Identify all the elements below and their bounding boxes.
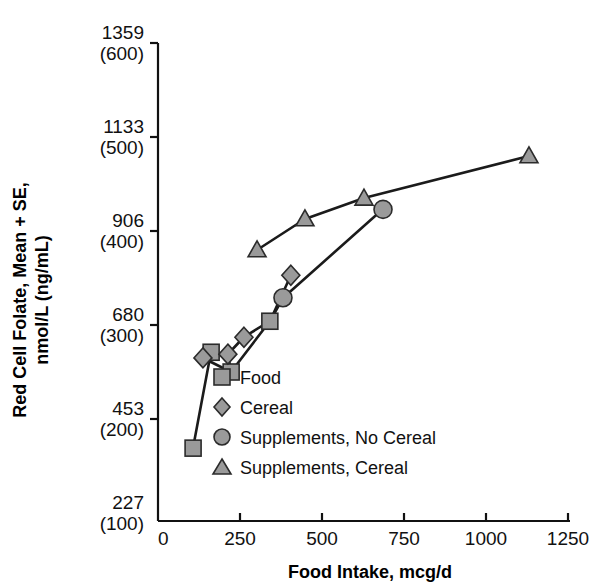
x-tick-label: 1250 — [547, 528, 589, 549]
y-tick-label-primary: 1133 — [103, 116, 144, 137]
y-tick-label-secondary: (500) — [100, 137, 144, 158]
y-tick-label-primary: 680 — [112, 304, 144, 325]
data-point-square — [262, 313, 278, 329]
legend-label-triangle: Supplements, Cereal — [240, 458, 408, 478]
x-tick-label: 750 — [388, 528, 420, 549]
data-point-diamond — [282, 265, 300, 285]
supplement-cereal-path — [257, 156, 529, 250]
data-point-circle — [274, 289, 292, 307]
y-tick-label-primary: 1359 — [102, 22, 144, 43]
data-point-square — [185, 440, 201, 456]
x-axis-title: Food Intake, mcg/d — [288, 562, 452, 582]
x-tick-label: 0 — [158, 528, 169, 549]
chart-root: 1359(600)1133(500)906(400)680(300)453(20… — [0, 0, 611, 587]
folate-scatter-chart: 1359(600)1133(500)906(400)680(300)453(20… — [0, 0, 611, 587]
y-tick-label-primary: 227 — [112, 492, 144, 513]
data-point-triangle — [248, 241, 266, 257]
y-tick-label-secondary: (100) — [100, 513, 144, 534]
x-tick-label: 1000 — [465, 528, 507, 549]
legend-label-square: Food — [240, 368, 281, 388]
y-tick-label-secondary: (200) — [100, 419, 144, 440]
legend-marker-circle — [214, 429, 230, 445]
data-point-triangle — [520, 147, 538, 163]
y-tick-label-primary: 453 — [112, 398, 144, 419]
legend-label-diamond: Cereal — [240, 398, 293, 418]
x-tick-label: 250 — [224, 528, 256, 549]
x-tick-label: 500 — [306, 528, 338, 549]
supplement-no-cereal-path — [231, 209, 383, 372]
y-tick-label-secondary: (300) — [100, 325, 144, 346]
legend-marker-triangle — [213, 459, 231, 474]
legend-label-circle: Supplements, No Cereal — [240, 428, 436, 448]
y-axis-title-line2: nmol/L (ng/mL) — [32, 235, 52, 365]
legend-marker-square — [214, 369, 230, 385]
y-tick-label-primary: 906 — [112, 210, 144, 231]
y-axis-title: Red Cell Folate, Mean + SE, — [10, 182, 30, 418]
y-tick-label-secondary: (600) — [100, 43, 144, 64]
y-tick-label-secondary: (400) — [100, 231, 144, 252]
data-point-circle — [374, 200, 392, 218]
legend-marker-diamond — [214, 398, 230, 416]
